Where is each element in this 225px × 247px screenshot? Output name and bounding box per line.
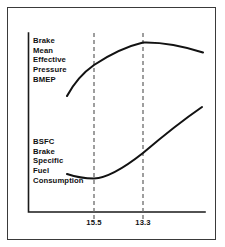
- annotation-bsfc-line-5: Consumption: [33, 176, 84, 186]
- annotation-bmep-line-1: Brake: [33, 36, 67, 46]
- annotation-bsfc-line-3: Specific: [33, 156, 84, 166]
- series-curve-bmep: [67, 42, 203, 96]
- annotation-bsfc-line-2: Brake: [33, 147, 84, 157]
- annotation-bmep-line-3: Effective: [33, 55, 67, 65]
- series-curve-bsfc: [67, 107, 202, 179]
- annotation-bmep-line-5: BMEP: [33, 75, 67, 85]
- chart-page: Brake Mean Effective Pressure BMEP BSFC …: [0, 0, 225, 247]
- annotation-bmep: Brake Mean Effective Pressure BMEP: [33, 36, 67, 85]
- x-tick-label-15-5: 15.5: [86, 218, 101, 227]
- annotation-bsfc-line-4: Fuel: [33, 166, 84, 176]
- x-tick-label-13-3: 13.3: [135, 218, 150, 227]
- annotation-bsfc: BSFC Brake Specific Fuel Consumption: [33, 137, 84, 186]
- annotation-bmep-line-2: Mean: [33, 46, 67, 56]
- annotation-bsfc-line-1: BSFC: [33, 137, 84, 147]
- annotation-bmep-line-4: Pressure: [33, 65, 67, 75]
